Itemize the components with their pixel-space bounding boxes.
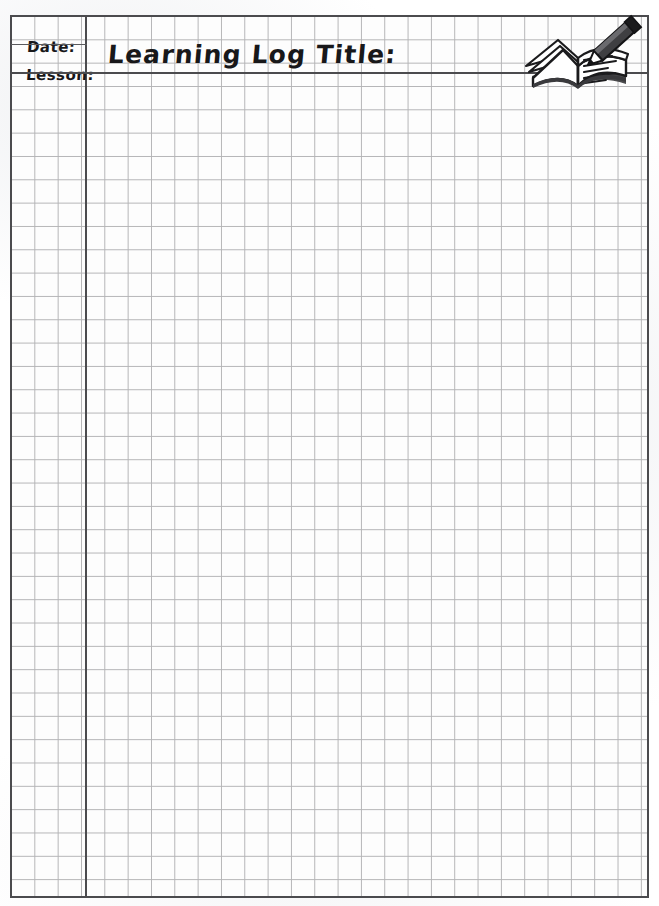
lesson-label: Lesson:: [25, 66, 94, 84]
date-label: Date:: [26, 38, 76, 56]
graph-paper-grid: [11, 16, 648, 897]
page-title: Learning Log Title:: [107, 40, 398, 70]
open-book-with-pencil-icon: [516, 14, 644, 104]
worksheet-page: Date: Lesson: Learning Log Title:: [0, 0, 659, 906]
